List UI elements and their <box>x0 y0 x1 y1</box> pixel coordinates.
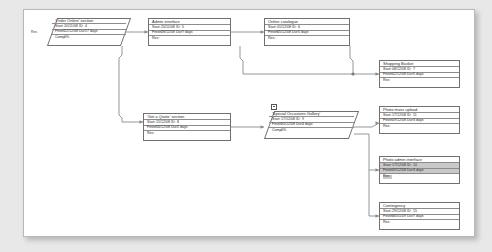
label-finish: Finish: <box>152 31 161 35</box>
value-finish: 20/12/08 <box>281 123 296 127</box>
node-body: Photo mass upload Start: 17/12/08 ID: 11… <box>380 107 459 133</box>
arrow-gallery <box>261 125 265 128</box>
value-dur: 2 days <box>177 126 191 130</box>
node-body: 'Special Occasions Gallery' Start: 17/12… <box>269 111 354 139</box>
node-side-tag-order-online: Res <box>31 30 37 34</box>
value-start: 20/11/08 <box>64 25 79 29</box>
label-start: Start: <box>268 26 277 30</box>
node-body: Shopping Basket Start: 08/12/08 ID: 7 Fi… <box>380 61 459 87</box>
node-body: Admin interface Start: 20/11/08 ID: 5 Fi… <box>149 19 230 45</box>
node-get-a-quote[interactable]: 'Get a Quote' section Start: 15/12/08 ID… <box>143 113 231 141</box>
label-finish: Finish: <box>383 119 392 123</box>
node-contingency[interactable]: Contingency Start: 29/12/08 ID: 15 Finis… <box>379 202 460 230</box>
label-res: Res: <box>268 37 277 41</box>
value-dur: 7 days <box>182 31 196 35</box>
value-finish: 05/12/08 <box>277 31 292 35</box>
value-dur: 5 days <box>298 31 312 35</box>
label-start: Start: <box>152 26 161 30</box>
value-id: 6 <box>298 26 312 30</box>
node-row-res: Res: <box>380 174 459 180</box>
label-comp: Comp: <box>55 36 64 40</box>
value-start: 17/12/08 <box>392 164 407 168</box>
diagram-page: 'Order Online' section Start: 20/11/08 I… <box>0 0 492 252</box>
label-res: Res: <box>383 175 392 179</box>
value-finish: 19/12/08 <box>392 169 407 173</box>
label-finish: Finish: <box>383 215 392 219</box>
node-order-online[interactable]: 'Order Online' section Start: 20/11/08 I… <box>52 18 126 46</box>
value-dur: 7 days <box>413 215 427 219</box>
label-res: Res: <box>383 221 392 225</box>
edge-catalogue-to-basket <box>350 46 379 74</box>
label-start: Start: <box>383 164 392 168</box>
value-finish: 06/01/09 <box>392 215 407 219</box>
node-shopping-basket[interactable]: Shopping Basket Start: 08/12/08 ID: 7 Fi… <box>379 60 460 88</box>
value-comp: 0% <box>281 129 296 133</box>
label-res: Res: <box>383 79 392 83</box>
value-id: 5 <box>182 26 196 30</box>
label-start: Start: <box>272 118 281 122</box>
node-admin-interface[interactable]: Admin interface Start: 20/11/08 ID: 5 Fi… <box>148 18 231 46</box>
edge-photo-admin-to-contingency <box>369 170 379 216</box>
label-start: Start: <box>383 210 392 214</box>
edge-gallery-to-photo-upload <box>354 123 379 127</box>
label-start: Start: <box>55 25 64 29</box>
diagram-canvas[interactable]: 'Order Online' section Start: 20/11/08 I… <box>23 9 475 237</box>
node-photo-admin-interface[interactable]: Photo admin interface Start: 17/12/08 ID… <box>379 156 460 184</box>
value-start: 01/12/08 <box>277 26 292 30</box>
value-dur: 3 days <box>413 119 427 123</box>
label-res: Res: <box>383 125 392 129</box>
node-row-res: Res: <box>380 78 459 84</box>
value-start: 15/12/08 <box>156 121 171 125</box>
edge-admin-to-basket <box>240 46 353 74</box>
value-start: 17/12/08 <box>281 118 296 122</box>
label-finish: Finish: <box>383 73 392 77</box>
value-finish: 19/12/08 <box>392 119 407 123</box>
edge-order-to-quote <box>119 46 143 122</box>
label-finish: Finish: <box>147 126 156 130</box>
value-id: 8 <box>177 121 191 125</box>
label-comp: Comp: <box>272 129 281 133</box>
node-row-comp: Comp: 0% <box>52 35 126 41</box>
label-finish: Finish: <box>272 123 281 127</box>
label-finish: Finish: <box>383 169 392 173</box>
label-finish: Finish: <box>55 30 64 34</box>
edge-gallery-to-photo-admin <box>354 134 379 170</box>
value-id: 10 <box>413 164 427 168</box>
label-res: Res: <box>152 37 161 41</box>
label-start: Start: <box>383 114 392 118</box>
node-row-comp: Comp: 0% <box>269 128 354 134</box>
node-body: Photo admin interface Start: 17/12/08 ID… <box>380 157 459 183</box>
value-dur: 5 days <box>413 73 427 77</box>
value-finish: 28/11/08 <box>161 31 176 35</box>
value-id: 15 <box>413 210 427 214</box>
node-special-occasions-gallery[interactable]: 'Special Occasions Gallery' Start: 17/12… <box>269 111 354 139</box>
node-row-res: Res: <box>380 124 459 130</box>
value-start: 29/12/08 <box>392 210 407 214</box>
value-comp: 0% <box>64 36 79 40</box>
value-id: 7 <box>413 68 427 72</box>
node-photo-mass-upload[interactable]: Photo mass upload Start: 17/12/08 ID: 11… <box>379 106 460 134</box>
value-finish: 12/12/08 <box>392 73 407 77</box>
node-row-res: Res: <box>144 131 230 137</box>
label-start: Start: <box>147 121 156 125</box>
node-body: 'Get a Quote' section Start: 15/12/08 ID… <box>144 114 230 140</box>
value-dur: 4 days <box>302 123 316 127</box>
node-body: Contingency Start: 29/12/08 ID: 15 Finis… <box>380 203 459 229</box>
value-dur: 3 days <box>413 169 427 173</box>
label-finish: Finish: <box>268 31 277 35</box>
value-id: 11 <box>413 114 427 118</box>
label-start: Start: <box>383 68 392 72</box>
value-dur: 17 days <box>85 30 99 34</box>
value-start: 20/11/08 <box>161 26 176 30</box>
node-online-catalogue[interactable]: Online catalogue Start: 01/12/08 ID: 6 F… <box>264 18 350 46</box>
node-body: 'Order Online' section Start: 20/11/08 I… <box>52 18 126 46</box>
value-finish: 12/12/08 <box>64 30 79 34</box>
node-row-res: Res: <box>149 36 230 42</box>
value-start: 08/12/08 <box>392 68 407 72</box>
node-row-res: Res: <box>265 36 349 42</box>
label-res: Res: <box>147 132 156 136</box>
value-start: 17/12/08 <box>392 114 407 118</box>
node-row-res: Res: <box>380 220 459 226</box>
node-body: Online catalogue Start: 01/12/08 ID: 6 F… <box>265 19 349 45</box>
value-id: 4 <box>85 25 99 29</box>
